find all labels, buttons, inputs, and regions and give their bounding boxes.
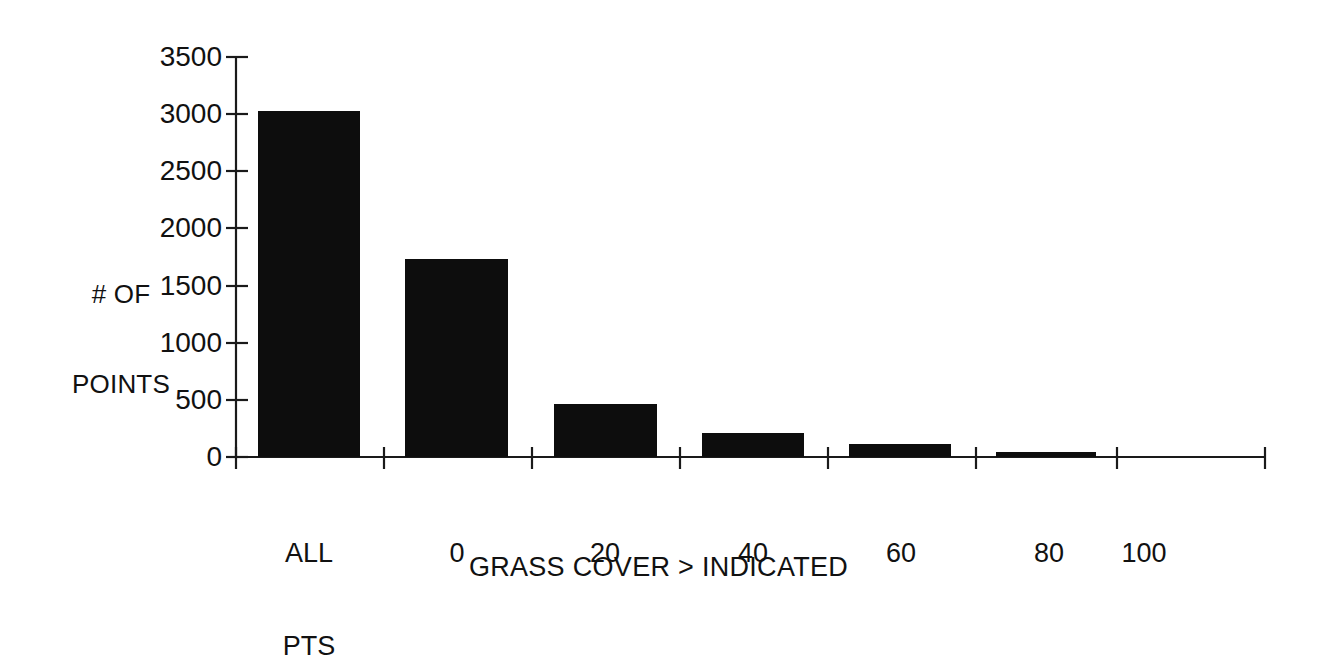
bar-0	[405, 259, 508, 457]
y-tick-label-3500: 3500	[100, 43, 222, 71]
bar-all-pts	[258, 111, 360, 457]
x-tick-label-all-pts-line-2: PTS	[249, 631, 369, 659]
y-tick-label-1500: 1500	[100, 272, 222, 300]
bar-40	[702, 433, 804, 457]
y-tick-label-2000: 2000	[100, 214, 222, 242]
bar-80	[996, 452, 1096, 457]
bar-20	[554, 404, 657, 457]
x-axis-title: GRASS COVER > INDICATED	[0, 552, 1317, 582]
bar-60	[849, 444, 951, 457]
y-tick-label-2500: 2500	[100, 157, 222, 185]
y-tick-label-1000: 1000	[100, 329, 222, 357]
y-tick-label-3000: 3000	[100, 100, 222, 128]
y-tick-label-0: 0	[100, 443, 222, 471]
y-tick-label-500: 500	[100, 386, 222, 414]
y-tick-label-group: 3500 3000 2500 2000 1500 1000 500 0	[100, 0, 222, 613]
